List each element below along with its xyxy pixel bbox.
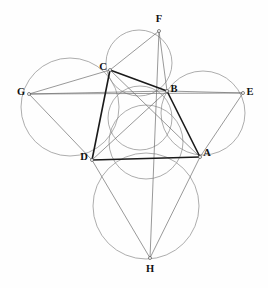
vertex-point-E[interactable] (242, 92, 245, 95)
segment-FC (110, 31, 159, 70)
segment-EB (167, 91, 243, 93)
segment-HA (150, 157, 200, 258)
vertex-label-H: H (146, 263, 154, 274)
segment-HD (92, 160, 150, 258)
vertex-point-F[interactable] (158, 30, 161, 33)
segment-DA (92, 157, 200, 160)
segment-CA (110, 70, 200, 157)
vertex-dots-layer (28, 30, 245, 260)
vertex-point-B[interactable] (166, 90, 169, 93)
vertex-label-B: B (170, 83, 177, 94)
circles-layer (21, 30, 245, 259)
vertex-point-G[interactable] (28, 93, 31, 96)
vertex-label-G: G (17, 86, 25, 97)
vertex-point-A[interactable] (199, 156, 202, 159)
vertex-labels-layer: ABCDEFGH (17, 13, 254, 274)
geometry-figure: ABCDEFGH (0, 0, 268, 288)
vertex-point-D[interactable] (91, 159, 94, 162)
vertex-point-C[interactable] (109, 69, 112, 72)
segment-AB (167, 91, 200, 157)
vertex-label-D: D (80, 151, 88, 162)
vertex-label-F: F (156, 13, 162, 24)
vertex-label-C: C (99, 61, 107, 72)
segment-GD (29, 94, 92, 160)
thin-segments-layer (29, 31, 243, 258)
segment-CB (110, 70, 167, 91)
geometry-canvas: ABCDEFGH (0, 0, 268, 288)
circumcircle-bottom-shape (93, 153, 199, 259)
segment-CD (92, 70, 110, 160)
segment-GC (29, 70, 110, 94)
vertex-label-A: A (203, 147, 211, 158)
vertex-label-E: E (246, 86, 253, 97)
vertex-point-H[interactable] (149, 257, 152, 260)
circumcircle-left-shape (21, 58, 119, 156)
